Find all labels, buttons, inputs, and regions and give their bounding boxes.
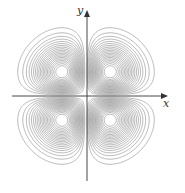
y-axis-label: y bbox=[77, 4, 83, 17]
x-axis-label: x bbox=[163, 97, 169, 110]
y-axis-arrow-icon bbox=[84, 10, 90, 17]
contour-plot bbox=[0, 0, 185, 193]
